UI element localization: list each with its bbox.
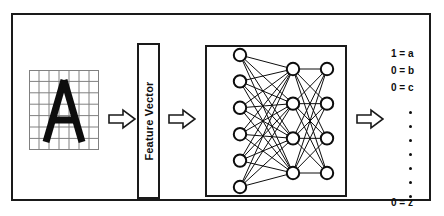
- output-ellipsis-dot: [391, 184, 439, 198]
- feature-vector-box: Feature Vector: [137, 43, 160, 199]
- right-arrow-icon: [168, 108, 196, 130]
- network-node-output-layer: [321, 97, 333, 109]
- output-ellipsis-dot: [391, 100, 439, 114]
- neural-network-box: [205, 45, 347, 197]
- figure-canvas: Feature Vector 1 = a 0 = b 0 = c: [0, 0, 444, 216]
- network-node-input-layer: [234, 49, 246, 61]
- output-ellipsis: [391, 100, 439, 198]
- arrow-network-to-output: [356, 108, 384, 130]
- network-edge: [240, 69, 293, 187]
- output-label-list: 1 = a 0 = b 0 = c 0 = z: [391, 49, 439, 193]
- letter-a-grid-svg: [29, 70, 99, 150]
- output-row-last: 0 = z: [391, 198, 439, 215]
- arrow-feature-vector-to-network: [168, 108, 196, 130]
- letter-a-grid: [29, 70, 99, 150]
- network-node-output-layer: [321, 132, 333, 144]
- network-node-input-layer: [234, 154, 246, 166]
- output-ellipsis-dot: [391, 128, 439, 142]
- output-ellipsis-dot: [391, 114, 439, 128]
- figure-outer-frame: Feature Vector 1 = a 0 = b 0 = c: [11, 13, 431, 201]
- network-edge: [240, 134, 293, 138]
- network-node-hidden-layer: [287, 97, 299, 109]
- network-edge: [240, 81, 293, 103]
- output-ellipsis-dot: [391, 170, 439, 184]
- right-arrow-icon: [356, 108, 384, 130]
- network-edge: [240, 104, 293, 108]
- network-node-input-layer: [234, 102, 246, 114]
- network-edge: [240, 138, 293, 160]
- output-ellipsis-dot: [391, 156, 439, 170]
- output-row: 0 = c: [391, 83, 439, 100]
- network-node-input-layer: [234, 75, 246, 87]
- output-row: 0 = b: [391, 66, 439, 83]
- output-ellipsis-dot: [391, 142, 439, 156]
- network-node-hidden-layer: [287, 167, 299, 179]
- network-node-hidden-layer: [287, 132, 299, 144]
- neural-network-diagram: [207, 47, 345, 195]
- network-edges: [240, 55, 327, 187]
- arrow-image-to-feature-vector: [108, 108, 136, 130]
- right-arrow-icon: [108, 108, 136, 130]
- network-node-output-layer: [321, 167, 333, 179]
- network-node-hidden-layer: [287, 63, 299, 75]
- network-node-input-layer: [234, 181, 246, 193]
- output-row: 1 = a: [391, 49, 439, 66]
- network-node-output-layer: [321, 63, 333, 75]
- network-node-input-layer: [234, 128, 246, 140]
- network-edge: [240, 69, 293, 161]
- feature-vector-label: Feature Vector: [143, 81, 155, 160]
